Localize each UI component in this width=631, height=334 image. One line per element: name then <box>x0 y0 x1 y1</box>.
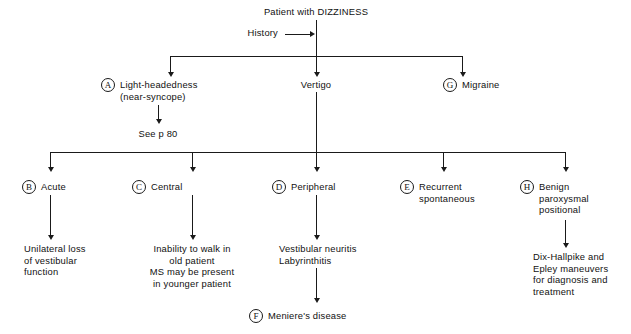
level2-arrow-icon-d <box>314 167 320 172</box>
level2-arrow-icon-e <box>441 167 447 172</box>
level3-connector-line-h <box>565 220 566 245</box>
badge-b: B <box>22 180 36 194</box>
level1-arrow-icon-vertigo <box>314 72 320 77</box>
dizziness-flowchart: Patient with DIZZINESS History A Light-h… <box>0 0 631 334</box>
badge-g: G <box>443 78 457 92</box>
root-node-label: Patient with DIZZINESS <box>264 6 368 18</box>
node-menieres-disease-label: Meniere's disease <box>268 310 346 322</box>
node-peripheral-label: Peripheral <box>291 181 336 193</box>
history-label: History <box>248 27 279 39</box>
level1-arrow-icon-g <box>460 72 466 77</box>
node-migraine-label: Migraine <box>462 79 499 91</box>
history-arrow-icon <box>310 31 315 37</box>
outcome-dix-hallpike-label: Dix-Hallpike and Epley maneuvers for dia… <box>533 251 608 297</box>
outcome-inability-to-walk-label: Inability to walk in old patient MS may … <box>150 243 234 289</box>
terminal-connector-line-f <box>316 268 317 300</box>
level3-arrow-icon-h <box>563 243 569 248</box>
badge-c: C <box>132 180 146 194</box>
badge-f: F <box>249 309 263 323</box>
level3-arrow-icon-c <box>190 235 196 240</box>
outcome-unilateral-loss-label: Unilateral loss of vestibular function <box>24 243 86 278</box>
see-page-arrow-icon <box>156 119 162 124</box>
history-connector-line <box>285 34 311 35</box>
badge-d: D <box>272 180 286 194</box>
level3-connector-line-d <box>316 195 317 237</box>
level3-arrow-icon-d <box>314 235 320 240</box>
terminal-arrow-icon-f <box>314 298 320 303</box>
node-light-headedness-label: Light-headedness (near-syncope) <box>120 79 198 102</box>
level3-arrow-icon-b <box>48 235 54 240</box>
outcome-vestibular-neuritis-label: Vestibular neuritis Labyrinthitis <box>279 243 357 266</box>
level1-arrow-icon-a <box>168 72 174 77</box>
level2-distribution-bar <box>50 152 566 153</box>
vertigo-stem-line <box>316 92 317 153</box>
node-acute-label: Acute <box>41 181 66 193</box>
level3-connector-line-c <box>192 195 193 237</box>
root-stem-line <box>316 20 317 56</box>
badge-a: A <box>101 78 115 92</box>
level2-arrow-icon-b <box>48 167 54 172</box>
node-vertigo-label: Vertigo <box>301 79 332 91</box>
badge-h: H <box>520 180 534 194</box>
node-recurrent-spontaneous-label: Recurrent spontaneous <box>419 181 475 204</box>
level2-arrow-icon-c <box>190 167 196 172</box>
node-central-label: Central <box>151 181 183 193</box>
node-benign-paroxysmal-positional-label: Benign paroxysmal positional <box>539 181 589 216</box>
level2-arrow-icon-h <box>563 167 569 172</box>
badge-e: E <box>400 180 414 194</box>
see-page-label: See p 80 <box>138 128 177 140</box>
level3-connector-line-b <box>50 195 51 237</box>
